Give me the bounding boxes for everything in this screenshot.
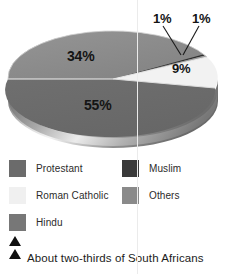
legend-label-roman-catholic: Roman Catholic: [36, 190, 109, 201]
triangle-up-icon-stack: [9, 236, 23, 262]
legend-label-hindu: Hindu: [36, 217, 63, 228]
pie-chart: 34% 55% 9% 1% 1%: [0, 0, 225, 152]
pie-label-55: 55%: [84, 97, 111, 113]
legend-swatch-hindu: [9, 214, 26, 231]
triangle-up-icon: [9, 249, 21, 259]
pie-label-34: 34%: [67, 48, 94, 64]
legend-column-left: Protestant Roman Catholic Hindu: [9, 155, 109, 236]
chart-legend: Protestant Roman Catholic Hindu Muslim O…: [0, 155, 225, 233]
legend-swatch-muslim: [122, 160, 139, 177]
pie-label-1-right: 1%: [192, 11, 210, 26]
legend-item-protestant: Protestant: [9, 155, 109, 182]
legend-label-others: Others: [149, 190, 180, 201]
pie-label-9: 9%: [172, 61, 190, 76]
legend-item-roman-catholic: Roman Catholic: [9, 182, 109, 209]
legend-item-others: Others: [122, 182, 181, 209]
caption-text: About two-thirds of South Africans: [27, 252, 204, 264]
legend-item-hindu: Hindu: [9, 209, 109, 236]
legend-swatch-roman-catholic: [9, 187, 26, 204]
legend-swatch-others: [122, 187, 139, 204]
chart-caption: About two-thirds of South Africans: [0, 233, 225, 274]
legend-column-right: Muslim Others: [122, 155, 181, 209]
pie-label-1-left: 1%: [153, 11, 171, 26]
legend-label-protestant: Protestant: [36, 163, 83, 174]
legend-item-muslim: Muslim: [122, 155, 181, 182]
legend-label-muslim: Muslim: [149, 163, 181, 174]
triangle-up-icon: [9, 236, 21, 246]
legend-swatch-protestant: [9, 160, 26, 177]
pie-top-surface: [5, 31, 218, 137]
